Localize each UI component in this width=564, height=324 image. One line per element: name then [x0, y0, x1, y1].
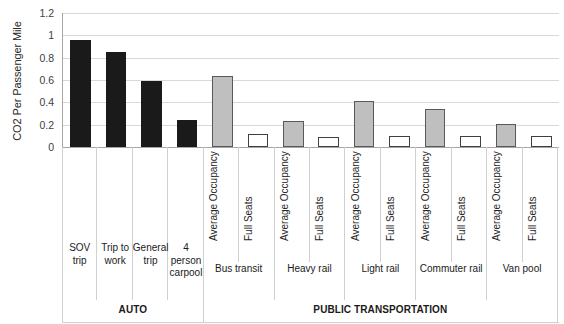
gridline-0.6 — [63, 80, 559, 81]
bar-heavy-rail-full-seats — [318, 137, 339, 147]
bar-bus-transit-average-occupancy — [212, 76, 233, 147]
y-axis-tick-labels: 00.20.40.60.811.2 — [16, 13, 58, 147]
x-vehicle-group-trip-to-work — [97, 262, 132, 300]
y-tick-label-0.8: 0.8 — [14, 53, 54, 63]
x-tick-cell: Average Occupancy — [345, 147, 380, 262]
x-tick-label-holder: Full Seats — [381, 151, 415, 243]
x-tick-label-full-seats: Full Seats — [526, 197, 540, 241]
x-axis-tick-label-band: Average OccupancyFull SeatsAverage Occup… — [62, 147, 559, 262]
y-tick-label-0.2: 0.2 — [14, 120, 54, 130]
x-axis-vehicle-group-band: Bus transitHeavy railLight railCommuter … — [62, 262, 559, 300]
y-tick-label-0.4: 0.4 — [14, 97, 54, 107]
x-tick-cell: Average Occupancy — [487, 147, 522, 262]
x-vehicle-group-4-person-carpool — [168, 262, 203, 300]
x-tick-label-full-seats: Full Seats — [242, 197, 256, 241]
bottom-rule — [62, 322, 559, 323]
x-vehicle-group-commuter-rail: Commuter rail — [416, 262, 487, 300]
x-tick-cell: Average Occupancy — [275, 147, 310, 262]
x-super-group-auto: AUTO — [62, 300, 204, 322]
x-tick-cell: Full Seats — [523, 147, 558, 262]
bar-general-trip — [141, 81, 162, 147]
x-tick-label-holder: Average Occupancy — [275, 151, 309, 243]
gridline-1 — [63, 35, 559, 36]
y-tick-label-1: 1 — [14, 30, 54, 40]
bar-light-rail-full-seats — [389, 136, 410, 147]
bar-4-person-carpool — [177, 120, 198, 147]
bar-heavy-rail-average-occupancy — [283, 121, 304, 147]
co2-per-passenger-mile-bar-chart: CO2 Per Passenger Mile 00.20.40.60.811.2… — [0, 0, 564, 324]
bar-bus-transit-full-seats — [248, 134, 269, 147]
x-vehicle-group-light-rail: Light rail — [345, 262, 416, 300]
x-vehicle-group-bus-transit: Bus transit — [204, 262, 275, 300]
bar-trip-to-work — [106, 52, 127, 147]
x-tick-label-full-seats: Full Seats — [313, 197, 327, 241]
bar-van-pool-average-occupancy — [496, 124, 517, 147]
x-tick-label-holder: Full Seats — [452, 151, 486, 243]
x-tick-label-holder: Average Occupancy — [345, 151, 379, 243]
x-tick-cell: Full Seats — [239, 147, 274, 262]
x-tick-label-holder: Average Occupancy — [416, 151, 450, 243]
x-tick-label-average-occupancy: Average Occupancy — [278, 151, 292, 241]
x-vehicle-group-heavy-rail: Heavy rail — [275, 262, 346, 300]
y-tick-label-0.6: 0.6 — [14, 75, 54, 85]
x-tick-label-holder: Full Seats — [310, 151, 344, 243]
x-tick-cell: Average Occupancy — [416, 147, 451, 262]
x-vehicle-group-general-trip — [133, 262, 168, 300]
gridline-1.2 — [63, 13, 559, 14]
x-tick-label-holder: Average Occupancy — [204, 151, 238, 243]
bar-sov-trip — [70, 40, 91, 147]
bar-commuter-rail-full-seats — [460, 136, 481, 147]
x-tick-label-full-seats: Full Seats — [455, 197, 469, 241]
x-tick-label-average-occupancy: Average Occupancy — [490, 151, 504, 241]
x-tick-label-average-occupancy: Average Occupancy — [207, 151, 221, 241]
x-tick-label-average-occupancy: Average Occupancy — [349, 151, 363, 241]
gridline-0.2 — [63, 125, 559, 126]
x-tick-label-holder: Full Seats — [523, 151, 557, 243]
bar-light-rail-average-occupancy — [354, 101, 375, 147]
x-vehicle-group-van-pool: Van pool — [487, 262, 558, 300]
gridline-0.8 — [63, 58, 559, 59]
x-axis-super-group-band: AUTOPUBLIC TRANSPORTATION — [62, 300, 559, 322]
x-vehicle-group-sov-trip — [62, 262, 97, 300]
y-tick-label-1.2: 1.2 — [14, 8, 54, 18]
plot-area — [62, 13, 559, 147]
gridline-0.4 — [63, 102, 559, 103]
bar-van-pool-full-seats — [531, 136, 552, 147]
x-tick-cell: Average Occupancy — [204, 147, 239, 262]
x-tick-label-full-seats: Full Seats — [384, 197, 398, 241]
x-tick-label-holder: Average Occupancy — [487, 151, 521, 243]
bar-commuter-rail-average-occupancy — [425, 109, 446, 147]
x-tick-cell: Full Seats — [452, 147, 487, 262]
x-tick-label-holder: Full Seats — [239, 151, 273, 243]
x-tick-cell: Full Seats — [310, 147, 345, 262]
y-tick-label-0: 0 — [14, 142, 54, 152]
x-tick-label-average-occupancy: Average Occupancy — [419, 151, 433, 241]
x-tick-cell: Full Seats — [381, 147, 416, 262]
x-super-group-public-transportation: PUBLIC TRANSPORTATION — [204, 300, 558, 322]
